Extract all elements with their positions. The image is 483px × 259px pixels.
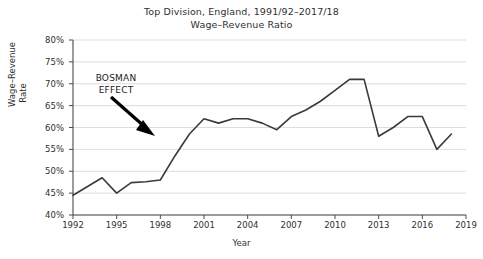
x-axis-title: Year bbox=[0, 238, 483, 248]
y-axis-title-line-2: Rate bbox=[18, 79, 29, 107]
axis-ticks bbox=[69, 40, 466, 219]
x-tick-label: 1998 bbox=[140, 220, 180, 230]
bosman-effect-arrow-icon bbox=[111, 97, 155, 136]
x-tick-label: 2007 bbox=[271, 220, 311, 230]
y-tick-label: 55% bbox=[30, 144, 64, 154]
x-tick-label: 2010 bbox=[315, 220, 355, 230]
x-tick-label: 2004 bbox=[228, 220, 268, 230]
wage-revenue-ratio-chart: Top Division, England, 1991/92–2017/18 W… bbox=[0, 0, 483, 259]
x-tick-label: 2013 bbox=[359, 220, 399, 230]
y-axis-title: Wage–Revenue Rate bbox=[7, 79, 29, 107]
bosman-effect-annotation: BOSMAN EFFECT bbox=[78, 72, 154, 96]
annotation-line-2: EFFECT bbox=[78, 84, 154, 96]
data-series-line bbox=[73, 79, 451, 195]
x-tick-label: 2016 bbox=[402, 220, 442, 230]
y-tick-label: 65% bbox=[30, 101, 64, 111]
y-axis-title-line-1: Wage–Revenue bbox=[7, 79, 18, 107]
annotation-line-1: BOSMAN bbox=[78, 72, 154, 84]
y-tick-label: 45% bbox=[30, 188, 64, 198]
y-tick-label: 75% bbox=[30, 57, 64, 67]
y-tick-label: 60% bbox=[30, 123, 64, 133]
x-tick-label: 1995 bbox=[97, 220, 137, 230]
y-tick-label: 80% bbox=[30, 35, 64, 45]
y-tick-label: 50% bbox=[30, 166, 64, 176]
x-tick-label: 2001 bbox=[184, 220, 224, 230]
gridlines bbox=[73, 40, 466, 215]
y-tick-label: 40% bbox=[30, 210, 64, 220]
x-tick-label: 2019 bbox=[446, 220, 483, 230]
x-tick-label: 1992 bbox=[53, 220, 93, 230]
y-tick-label: 70% bbox=[30, 79, 64, 89]
